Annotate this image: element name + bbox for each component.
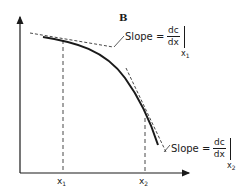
slope1-denominator: dx [167,37,180,47]
tangent-line-x2 [126,68,166,152]
slope1-eval-bar [184,26,185,48]
curve [43,37,158,145]
slope2-eval-bar [230,138,231,160]
slope2-fraction: dc dx [213,138,226,159]
slope1-numerator: dc [167,26,180,37]
leader-slope2 [164,145,170,152]
slope1-fraction: dc dx [167,26,180,47]
x-tick-x1: x1 [57,176,66,187]
diagram-canvas [0,0,243,196]
panel-label: B [119,12,127,23]
slope1-prefix: Slope = [125,32,164,42]
x-tick-x2: x2 [139,176,148,187]
slope1-eval-point: x1 [181,49,190,59]
tangent-line-x1 [30,33,113,47]
slope2-prefix: Slope = [171,144,210,154]
leader-slope1 [114,36,124,47]
slope2-denominator: dx [213,149,226,159]
slope2-eval-point: x2 [227,161,236,171]
slope2-numerator: dc [213,138,226,149]
